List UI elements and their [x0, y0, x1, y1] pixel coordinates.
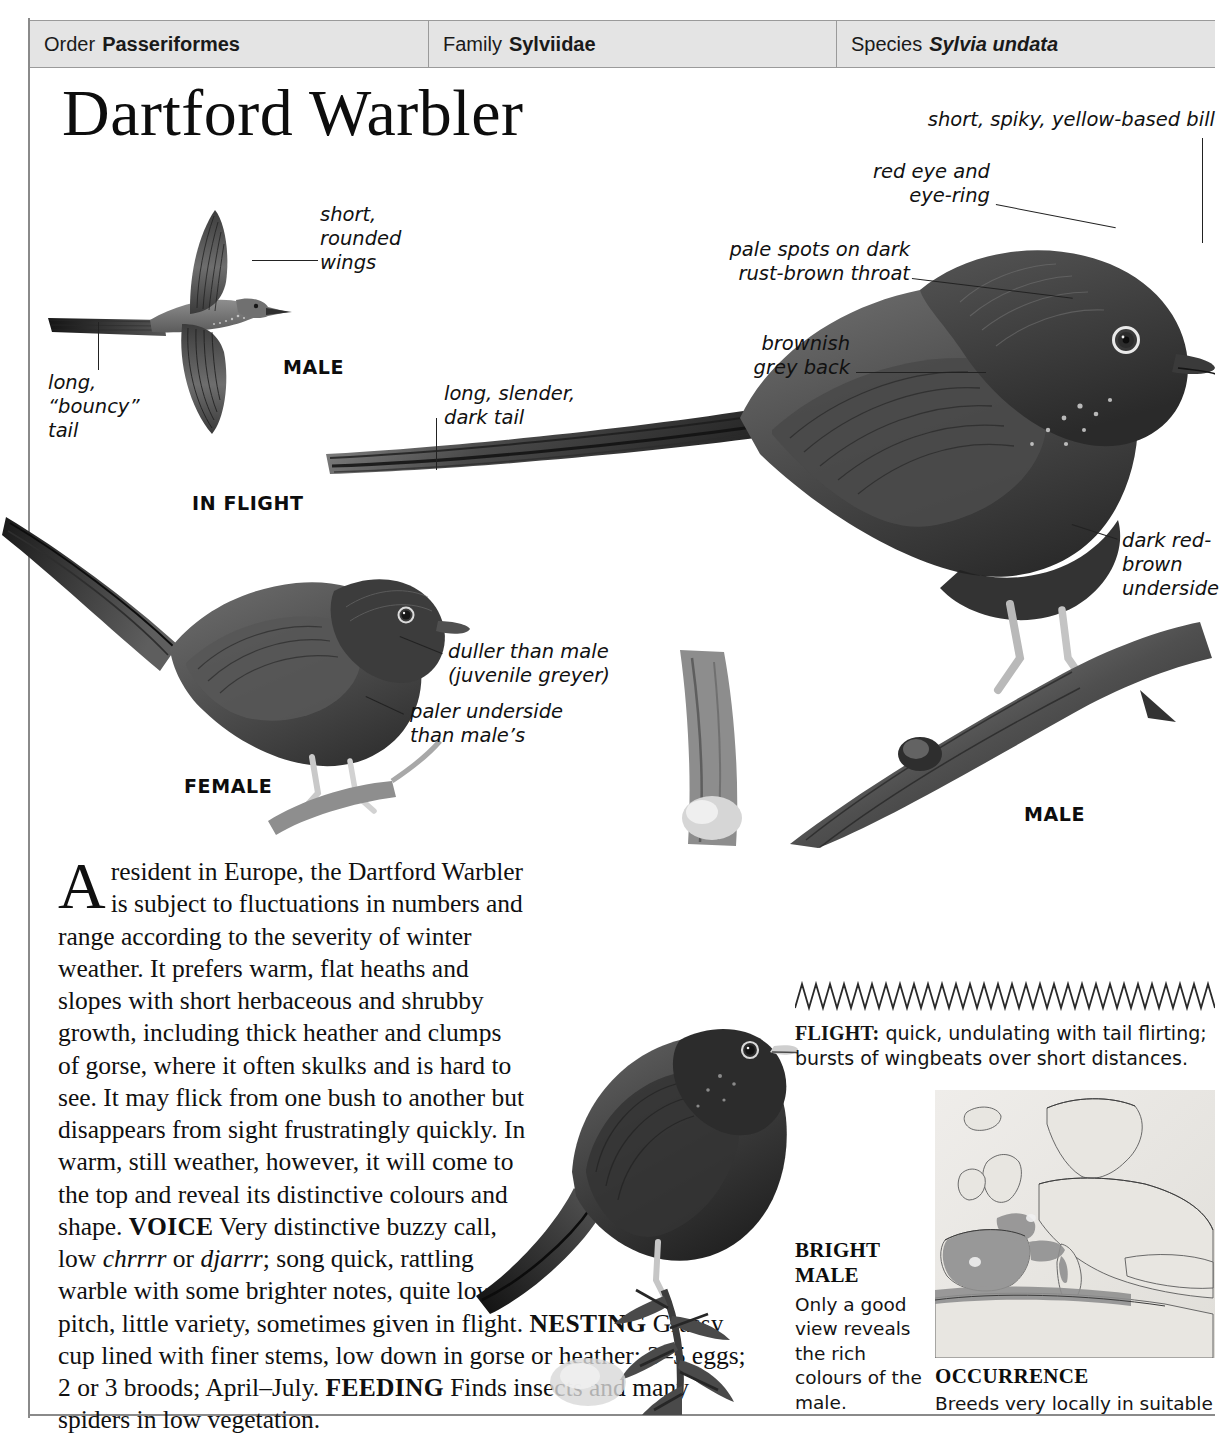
bright-male-title-line1: BRIGHT	[795, 1238, 923, 1263]
taxonomy-order-cell: Order Passeriformes	[30, 21, 428, 67]
flight-description: FLIGHT: quick, undulating with tail flir…	[795, 1020, 1215, 1071]
annotation-duller-than-male: duller than male (juvenile greyer)	[448, 640, 610, 688]
taxonomy-species-value: Sylvia undata	[929, 33, 1058, 56]
taxonomy-species-cell: Species Sylvia undata	[836, 21, 1215, 67]
bird-photo-bright-male	[468, 990, 798, 1415]
taxonomy-family-value: Sylviidae	[509, 33, 596, 56]
taxonomy-order-label: Order	[44, 33, 95, 56]
voice-call-chrrrr: chrrrr	[103, 1244, 167, 1273]
leader-line-dark-tail	[436, 418, 437, 470]
annotation-paler-underside: paler underside than male’s	[410, 700, 563, 748]
leader-line-short-spiky-bill	[1202, 138, 1203, 243]
leader-line-long-bouncy-tail	[98, 322, 99, 370]
bright-male-title: BRIGHT MALE	[795, 1238, 923, 1288]
drop-cap: A	[58, 856, 111, 913]
annotation-brownish-grey-back: brownish grey back	[660, 332, 850, 380]
annotation-long-slender-dark-tail: long, slender, dark tail	[444, 382, 575, 430]
bright-male-caption: BRIGHT MALE Only a good view reveals the…	[795, 1238, 923, 1416]
caption-female: FEMALE	[184, 775, 272, 797]
taxonomy-family-label: Family	[443, 33, 502, 56]
taxonomy-header: Order Passeriformes Family Sylviidae Spe…	[30, 20, 1215, 68]
annotation-dark-red-brown-underside: dark red- brown underside	[1122, 529, 1219, 601]
flight-heading: FLIGHT:	[795, 1022, 879, 1044]
description-opening: resident in Europe, the Dartford Warbler…	[58, 857, 525, 1241]
taxonomy-species-label: Species	[851, 33, 922, 56]
caption-male-perched: MALE	[1024, 803, 1085, 825]
annotation-short-spiky-bill: short, spiky, yellow-based bill	[870, 108, 1215, 132]
feeding-heading: FEEDING	[326, 1373, 444, 1402]
voice-call-djarrr: djarrr	[200, 1244, 262, 1273]
occurrence-section: OCCURRENCE Breeds very locally in suitab…	[935, 1364, 1215, 1416]
flight-pattern-zigzag-icon	[795, 980, 1215, 1014]
leader-line-short-rounded-wings	[252, 260, 318, 261]
annotation-red-eye-and-eyering: red eye and eye-ring	[790, 160, 990, 208]
annotation-pale-spots-throat: pale spots on dark rust-brown throat	[660, 238, 910, 286]
taxonomy-order-value: Passeriformes	[102, 33, 240, 56]
bright-male-title-line2: MALE	[795, 1263, 923, 1288]
voice-text-2: or	[166, 1244, 200, 1273]
distribution-map	[935, 1090, 1215, 1358]
occurrence-body: Breeds very locally in suitable	[935, 1392, 1215, 1416]
voice-heading: VOICE	[129, 1212, 214, 1241]
occurrence-title: OCCURRENCE	[935, 1364, 1215, 1389]
taxonomy-family-cell: Family Sylviidae	[428, 21, 836, 67]
bird-illustration-in-flight	[40, 196, 350, 496]
annotation-long-bouncy-tail: long, “bouncy” tail	[48, 371, 140, 443]
leader-line-grey-back	[856, 372, 986, 373]
bright-male-body: Only a good view reveals the rich colour…	[795, 1293, 923, 1416]
